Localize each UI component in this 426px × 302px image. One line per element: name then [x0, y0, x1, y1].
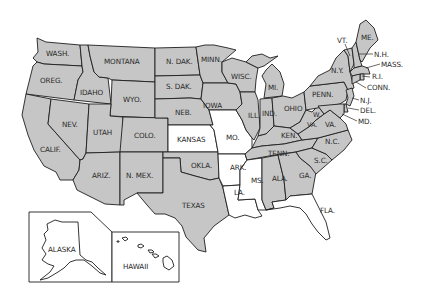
label-nj: N.J. [360, 96, 372, 105]
label-oreg: OREG. [40, 76, 63, 85]
label-ind: IND. [262, 109, 277, 118]
label-md: MD. [358, 117, 372, 126]
label-wva-w: W. [313, 111, 321, 119]
label-mi: MI. [268, 83, 278, 92]
label-nc: N.C. [325, 137, 340, 146]
label-ill: ILL. [248, 111, 260, 120]
label-ohio: OHIO [284, 104, 303, 113]
label-me: ME. [361, 33, 374, 42]
label-del: DEL. [360, 106, 376, 115]
label-wisc: WISC. [231, 72, 252, 81]
label-kansas: KANSAS [177, 135, 206, 144]
label-okla: OKLA. [191, 161, 212, 170]
state-rhode-island[interactable] [360, 74, 364, 80]
label-neb: NEB. [175, 108, 192, 117]
label-ariz: ARIZ. [92, 171, 111, 180]
label-ny: N.Y. [331, 66, 343, 75]
label-ken: KEN. [281, 131, 298, 140]
label-sdak: S. DAK. [166, 82, 192, 91]
label-ala: ALA. [272, 174, 288, 183]
label-conn: CONN. [367, 83, 390, 92]
label-nev: NEV. [62, 120, 78, 129]
label-nh: N.H. [374, 50, 389, 59]
label-mo: MO. [226, 133, 240, 142]
label-ark: ARK. [230, 163, 247, 172]
label-idaho: IDAHO [80, 88, 103, 97]
label-fla: FLA. [320, 206, 335, 215]
state-new-jersey[interactable] [346, 88, 354, 106]
label-sc: S.C. [314, 156, 328, 165]
state-connecticut[interactable] [352, 74, 360, 84]
label-wyo: WYO. [123, 95, 141, 104]
label-texas: TEXAS [181, 201, 205, 210]
label-la: LA. [234, 188, 245, 197]
label-vt: VT. [337, 36, 347, 45]
label-wash: WASH. [46, 49, 69, 58]
label-colo: COLO. [134, 131, 156, 140]
label-mass: MASS. [381, 60, 403, 69]
label-iowa: IOWA [203, 101, 222, 110]
label-montana: MONTANA [104, 57, 140, 66]
label-tenn: TENN. [267, 149, 289, 158]
label-nmex: N. MEX. [126, 171, 153, 180]
label-ga: GA. [299, 171, 311, 180]
label-minn: MINN. [201, 55, 222, 64]
label-va: VA. [325, 120, 336, 129]
state-michigan[interactable] [262, 64, 284, 98]
label-calif: CALIF. [40, 145, 61, 154]
label-hawaii: HAWAII [123, 262, 148, 271]
label-ms: MS. [251, 176, 264, 185]
label-ndak: N. DAK. [166, 57, 193, 66]
us-map: WASH. OREG. CALIF. IDAHO NEV. MONTANA WY… [0, 0, 426, 302]
label-alaska: ALASKA [48, 245, 76, 254]
label-penn: PENN. [312, 90, 333, 99]
label-utah: UTAH [93, 128, 112, 137]
label-wva-va: VA. [307, 121, 317, 129]
label-ri: R.I. [372, 72, 383, 81]
